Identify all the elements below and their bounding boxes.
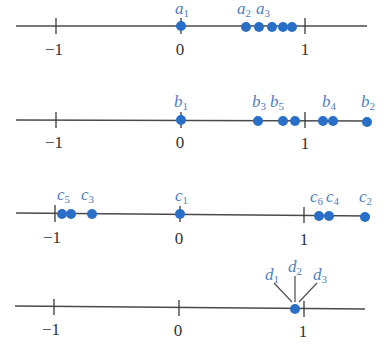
label-a1: a1 [175, 0, 189, 19]
point-b7 [290, 116, 300, 126]
number-line-b: −1 0 1 b1 b3 b5 b4 b2 [16, 92, 375, 153]
point-a4 [267, 22, 277, 32]
number-line-c: −1 0 1 c5 c3 c1 c6 c4 c2 [16, 185, 372, 249]
leader-d1 [274, 283, 292, 302]
label-c5: c5 [57, 185, 71, 205]
point-c2 [360, 212, 370, 222]
point-b2 [362, 117, 372, 127]
tick-label-one: 1 [300, 230, 309, 249]
number-line-a: −1 0 1 a1 a2 a3 [16, 0, 367, 59]
tick-label-zero: 0 [174, 321, 183, 340]
tick-label-zero: 0 [176, 40, 185, 59]
point-b5 [278, 116, 288, 126]
point-a3 [254, 22, 264, 32]
tick-label-one: 1 [299, 322, 308, 341]
label-d1: d1 [265, 265, 279, 285]
label-c1: c1 [175, 186, 188, 206]
tick-label-one: 1 [301, 134, 310, 153]
label-a3: a3 [256, 0, 271, 19]
tick-label-minus-one: −1 [45, 40, 63, 59]
label-c4: c4 [326, 187, 340, 207]
point-c3 [87, 209, 97, 219]
point-c1 [175, 209, 185, 219]
point-b3 [253, 116, 263, 126]
label-b4: b4 [322, 92, 337, 112]
leader-d3 [299, 283, 317, 302]
label-b5: b5 [270, 92, 285, 112]
label-b3: b3 [252, 92, 267, 112]
point-a1 [176, 21, 186, 31]
label-b1: b1 [174, 92, 188, 112]
label-c3: c3 [81, 185, 95, 205]
axis-line [16, 120, 370, 121]
tick-label-minus-one: −1 [45, 133, 63, 152]
point-b1 [176, 115, 186, 125]
label-c6: c6 [310, 187, 324, 207]
number-line-diagram: −1 0 1 a1 a2 a3 −1 0 1 b1 b3 b5 b4 b2 [0, 0, 392, 360]
point-c5 [57, 209, 67, 219]
tick-label-zero: 0 [176, 133, 185, 152]
label-b2: b2 [361, 92, 375, 112]
point-d [290, 304, 300, 314]
number-line-d: −1 0 1 d1 d2 d3 [15, 257, 365, 341]
tick-label-zero: 0 [175, 229, 184, 248]
label-d2: d2 [288, 257, 302, 277]
label-c2: c2 [359, 187, 372, 207]
label-d3: d3 [313, 265, 328, 285]
tick-label-minus-one: −1 [43, 228, 61, 247]
point-a2 [241, 22, 251, 32]
point-c4 [324, 211, 334, 221]
tick-label-minus-one: −1 [42, 320, 60, 339]
point-c7 [66, 209, 76, 219]
point-b4 [328, 116, 338, 126]
tick-label-one: 1 [301, 40, 310, 59]
label-a2: a2 [237, 0, 251, 19]
axis-line [15, 306, 365, 309]
point-c6 [314, 211, 324, 221]
point-a5 [278, 22, 288, 32]
point-a6 [287, 22, 297, 32]
point-b6 [318, 116, 328, 126]
